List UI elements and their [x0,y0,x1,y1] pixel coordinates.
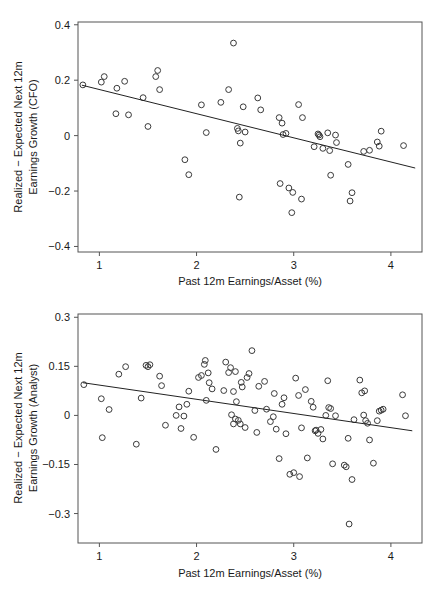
scatter-point [202,358,208,364]
scatter-point [357,377,363,383]
scatter-point [205,370,211,376]
scatter-point [293,375,299,381]
scatter-point [228,365,234,371]
scatter-point [237,140,243,146]
x-tick-label: 3 [291,259,297,271]
y-tick-label: 0.15 [49,360,70,372]
scatter-point [300,115,306,121]
scatter-point [254,430,260,436]
scatter-point [378,128,384,134]
y-tick-label: 0.2 [55,74,70,86]
scatter-points [81,348,408,527]
scatter-point [320,436,326,442]
scatter-point [345,435,351,441]
chart-panel-analyst: 0.30.150−0.15−0.31234Past 12m Earnings/A… [0,300,434,604]
scatter-point [371,460,377,466]
scatter-point [98,396,104,402]
scatter-point [403,413,409,419]
scatter-point [310,404,316,410]
scatter-point [138,395,144,401]
scatter-point [242,425,248,431]
scatter-point [184,401,190,407]
scatter-point [249,348,255,354]
scatter-point [297,474,303,480]
scatter-point [153,74,159,80]
scatter-point [155,68,161,74]
scatter-point [349,477,355,483]
scatter-point [325,130,331,136]
scatter-point [101,74,107,80]
scatter-point [226,87,232,93]
scatter-point [240,104,246,110]
y-tick-label: 0 [64,130,70,142]
scatter-point [176,404,182,410]
y-axis-title-line2: Earnings Growth (Analyst) [27,364,39,492]
scatter-point [325,378,331,384]
scatter-point [213,447,219,453]
scatter-point [126,112,132,118]
scatter-point [290,190,296,196]
scatter-point [231,389,237,395]
scatter-point [320,145,326,151]
scatter-point [277,181,283,187]
scatter-point [345,162,351,168]
scatter-point [123,364,129,370]
scatter-point [279,120,285,126]
scatter-point [289,210,295,216]
scatter-point [199,102,205,108]
scatter-point [231,40,237,46]
scatter-plot-analyst[interactable]: 0.30.150−0.15−0.31234Past 12m Earnings/A… [0,300,434,604]
scatter-point [330,461,336,467]
scatter-point [178,426,184,432]
scatter-point [276,456,282,462]
scatter-point [262,378,268,384]
scatter-point [328,172,334,178]
y-tick-label: −0.2 [48,185,70,197]
scatter-point [302,387,308,393]
scatter-point [299,196,305,202]
x-axis-title: Past 12m Earnings/Asset (%) [178,567,322,579]
scatter-point [299,425,305,431]
scatter-point [106,407,112,413]
chart-panel-cfo: 0.40.20−0.2−0.41234Past 12m Earnings/Ass… [0,0,434,300]
scatter-point [304,455,310,461]
scatter-point [283,431,289,437]
scatter-point [159,383,165,389]
scatter-point [80,82,86,88]
scatter-point [256,383,262,389]
scatter-point [296,102,302,108]
scatter-point [122,78,128,84]
scatter-point [133,441,139,447]
scatter-point [255,95,261,101]
scatter-point [186,388,192,394]
scatter-plot-cfo[interactable]: 0.40.20−0.2−0.41234Past 12m Earnings/Ass… [0,0,434,300]
scatter-point [276,115,282,121]
scatter-point [333,132,339,138]
scatter-point [186,172,192,178]
scatter-point [334,140,340,146]
scatter-point [361,149,367,155]
y-axis-title-line1: Realized − Expected Next 12m [12,61,24,212]
scatter-point [223,359,229,365]
scatter-point [163,422,169,428]
scatter-point [400,392,406,398]
scatter-point [270,414,276,420]
y-tick-label: 0 [64,409,70,421]
scatter-point [145,124,151,130]
scatter-point [367,437,373,443]
scatter-point [346,521,352,527]
scatter-point [347,198,353,204]
scatter-point [311,144,317,150]
scatter-point [271,391,277,397]
scatter-point [367,147,373,153]
scatter-point [308,398,314,404]
y-axis-title-line1: Realized − Expected Next 12m [12,352,24,503]
scatter-point [273,426,279,432]
x-tick-label: 2 [193,259,199,271]
scatter-point [234,399,240,405]
y-axis-title-line2: Earnings Growth (CFO) [27,79,39,195]
scatter-point [181,413,187,419]
scatter-point [201,361,207,367]
scatter-point [191,434,197,440]
x-tick-label: 4 [388,259,394,271]
